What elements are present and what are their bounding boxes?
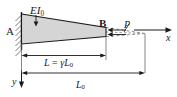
beam-diagram-figure: EI0 A B P x y L = γL0 L0: [0, 0, 177, 97]
label-point-b: B: [99, 18, 106, 29]
label-flexural-rigidity: EI0: [30, 5, 44, 18]
label-support-a: A: [6, 26, 14, 37]
diagram-canvas: [0, 0, 177, 97]
label-dimension-L: L = γL0: [44, 58, 73, 69]
label-axis-x: x: [166, 33, 170, 43]
label-load-p: P: [124, 20, 130, 30]
label-dimension-L0: L0: [76, 80, 85, 91]
dimension-line-L0: [22, 71, 146, 75]
label-axis-y: y: [12, 77, 16, 87]
fixed-support-wall: [16, 12, 22, 56]
tapered-beam-body: [22, 14, 107, 44]
